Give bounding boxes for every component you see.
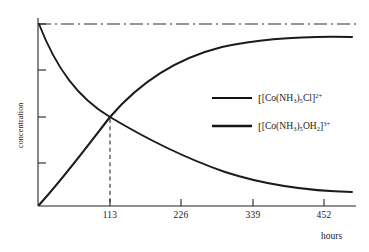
x-tick-label-113: 113 [96,210,124,220]
x-tick-label-339: 339 [239,210,267,220]
curve-cochloro-decay [39,24,352,192]
x-tick-label-226: 226 [167,210,195,220]
legend-label-cochloro: [[Co(NH3)5Cl]2+ [258,93,322,104]
legend-charge-1: 2+ [315,92,322,99]
legend-text-2c: OH [303,120,317,131]
x-axis-title: hours [321,231,342,241]
y-axis-title: concentration [16,103,25,149]
legend-text-1a: [Co(NH [262,92,293,103]
legend-text-1c: Cl] [303,92,315,103]
legend-charge-2: 3+ [323,120,330,127]
x-tick-label-452: 452 [310,210,338,220]
kinetics-chart-figure: concentration 113 226 339 452 hours [[Co… [0,0,369,252]
legend-label-coaqua: [[Co(NH3)5OH2]3+ [258,121,330,132]
legend-text-2a: [Co(NH [262,120,293,131]
